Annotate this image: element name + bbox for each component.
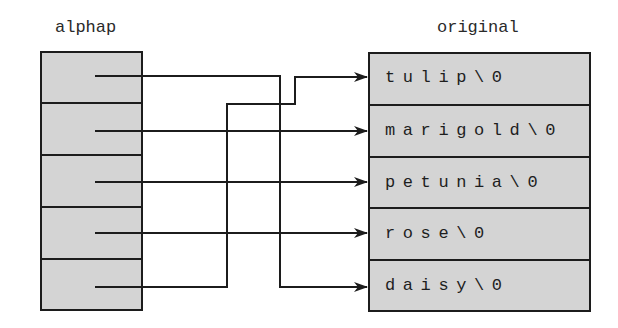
string-cell-rose: rose\0 <box>370 209 589 261</box>
pointer-diagram: alphap original tulip\0 marigold\0 petun… <box>0 0 618 328</box>
alphap-cell-2 <box>42 156 141 208</box>
alphap-cell-0 <box>42 53 141 104</box>
string-cell-tulip: tulip\0 <box>370 54 589 106</box>
string-text: daisy\0 <box>385 276 510 296</box>
string-text: petunia\0 <box>385 173 545 193</box>
string-text: marigold\0 <box>385 121 563 141</box>
string-cell-daisy: daisy\0 <box>370 261 589 312</box>
original-array: tulip\0 marigold\0 petunia\0 rose\0 dais… <box>368 52 591 312</box>
original-label: original <box>437 18 519 37</box>
alphap-cell-4 <box>42 260 141 311</box>
string-text: rose\0 <box>385 224 492 244</box>
string-cell-marigold: marigold\0 <box>370 106 589 158</box>
alphap-cell-3 <box>42 208 141 260</box>
alphap-array <box>40 51 143 311</box>
string-text: tulip\0 <box>385 68 510 88</box>
alphap-label: alphap <box>55 18 116 37</box>
alphap-cell-1 <box>42 104 141 156</box>
string-cell-petunia: petunia\0 <box>370 158 589 209</box>
